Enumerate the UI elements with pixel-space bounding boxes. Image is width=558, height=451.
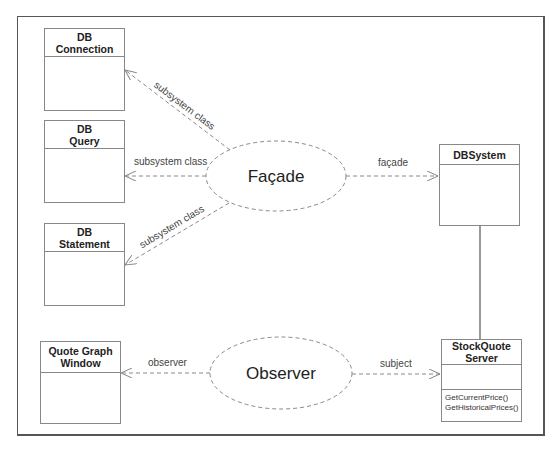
class-name: DB Connection bbox=[45, 29, 124, 57]
relation-label-subject: subject bbox=[380, 358, 412, 369]
relation-label-dbsystem: façade bbox=[378, 157, 408, 168]
class-stockquote-server[interactable]: StockQuote Server GetCurrentPrice() GetH… bbox=[441, 339, 522, 422]
relation-label-observer: observer bbox=[148, 357, 187, 368]
class-name-line: StockQuote bbox=[452, 340, 511, 352]
class-name: DBSystem bbox=[440, 145, 519, 165]
class-name-line: Window bbox=[60, 357, 100, 369]
relation-label-db-query: subsystem class bbox=[134, 156, 207, 167]
class-name: Quote Graph Window bbox=[41, 342, 120, 373]
class-name-line: Query bbox=[69, 135, 99, 147]
class-name: DB Statement bbox=[45, 224, 124, 252]
class-name-line: DB bbox=[77, 226, 92, 238]
class-db-query[interactable]: DB Query bbox=[44, 120, 125, 203]
class-name-line: Connection bbox=[56, 43, 114, 55]
operation: GetCurrentPrice() bbox=[445, 393, 521, 403]
operations-section: GetCurrentPrice() GetHistoricalPrices() bbox=[442, 390, 521, 413]
pattern-observer-label: Observer bbox=[246, 364, 316, 384]
attributes-section bbox=[442, 365, 521, 390]
class-name-line: Statement bbox=[59, 238, 110, 250]
class-name-line: DBSystem bbox=[453, 149, 506, 161]
operation: GetHistoricalPrices() bbox=[445, 403, 521, 413]
arrow-facade-to-db-connection bbox=[125, 70, 230, 150]
class-name-line: Quote Graph bbox=[48, 345, 112, 357]
class-dbsystem[interactable]: DBSystem bbox=[439, 144, 520, 226]
class-db-statement[interactable]: DB Statement bbox=[44, 223, 125, 306]
class-name-line: DB bbox=[77, 31, 92, 43]
class-name-line: DB bbox=[77, 123, 92, 135]
diagram-canvas: DB Connection DB Query DB Statement Quot… bbox=[0, 0, 558, 451]
pattern-facade-label: Façade bbox=[248, 167, 305, 187]
class-quote-graph-window[interactable]: Quote Graph Window bbox=[40, 341, 121, 424]
class-name: StockQuote Server bbox=[442, 340, 521, 365]
arrow-facade-to-db-statement bbox=[125, 203, 229, 265]
class-name-line: Server bbox=[465, 352, 498, 364]
class-name: DB Query bbox=[45, 121, 124, 149]
class-db-connection[interactable]: DB Connection bbox=[44, 28, 125, 111]
